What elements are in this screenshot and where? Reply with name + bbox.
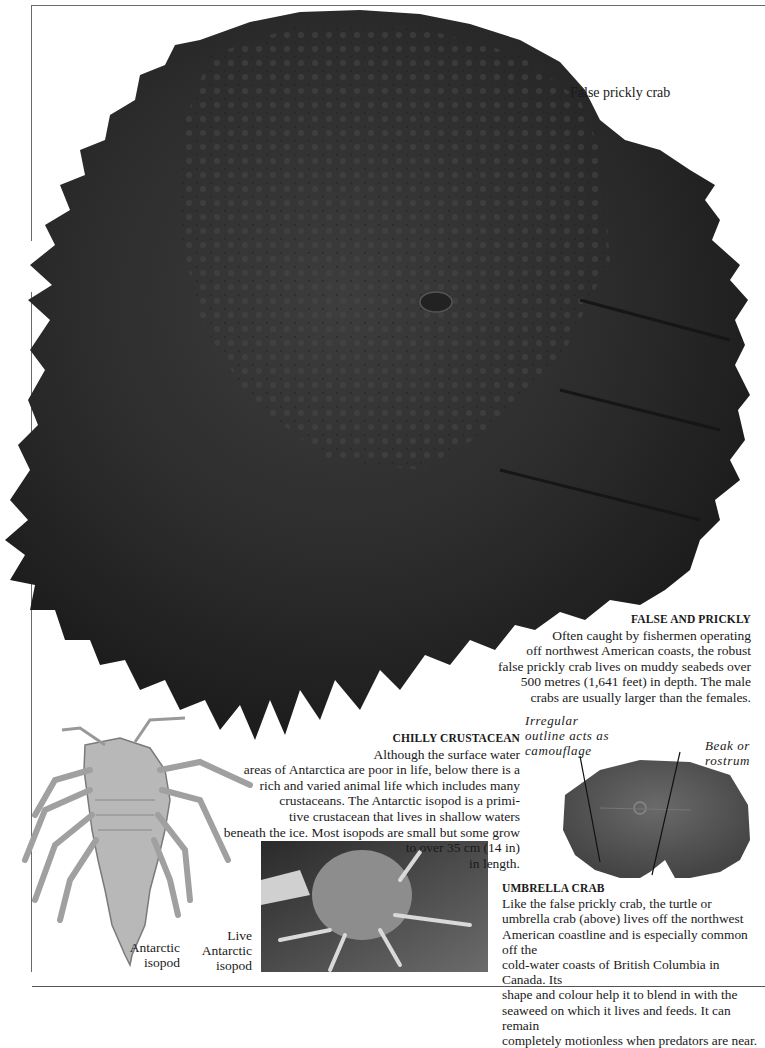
caption-line: tive crustacean that lives in shallow wa… — [210, 809, 520, 825]
label-line: Beak or — [660, 738, 750, 753]
caption-line: seaweed on which it lives and feeds. It … — [502, 1003, 764, 1033]
caption-line: cold-water coasts of British Columbia in… — [502, 957, 764, 987]
caption-line: to over 35 cm (14 in) — [210, 840, 520, 856]
caption-line: areas of Antarctica are poor in life, be… — [210, 762, 520, 778]
label-line: Live — [190, 928, 252, 943]
caption-line: Often caught by fishermen operating — [421, 628, 751, 644]
caption-line: false prickly crab lives on muddy seabed… — [421, 659, 751, 675]
caption-line: American coastline and is especially com… — [502, 927, 764, 957]
caption-line: rich and varied animal life which includ… — [210, 778, 520, 794]
irregular-outline-label: Irregular outline acts as camouflage — [525, 713, 645, 758]
false-and-prickly-caption: FALSE AND PRICKLY Often caught by fisher… — [421, 612, 751, 706]
label-line: isopod — [80, 955, 180, 970]
label-line: Irregular — [525, 713, 645, 728]
chilly-crustacean-caption: CHILLY CRUSTACEAN Although the surface w… — [210, 731, 520, 871]
caption-line: beneath the ice. Most isopods are small … — [210, 825, 520, 841]
caption-line: 500 metres (1,641 feet) in depth. The ma… — [421, 674, 751, 690]
caption-line: in length. — [210, 856, 520, 872]
caption-line: Although the surface water — [210, 747, 520, 763]
label-line: rostrum — [660, 753, 750, 768]
live-antarctic-isopod-label: Live Antarctic isopod — [190, 928, 252, 973]
false-prickly-crab-label: False prickly crab — [570, 85, 670, 101]
caption-heading: CHILLY CRUSTACEAN — [210, 731, 520, 747]
antarctic-isopod-label: Antarctic isopod — [80, 940, 180, 970]
label-line: outline acts as — [525, 728, 645, 743]
caption-line: off northwest American coasts, the robus… — [421, 643, 751, 659]
caption-heading: UMBRELLA CRAB — [502, 881, 764, 896]
label-line: camouflage — [525, 743, 645, 758]
beak-rostrum-label: Beak or rostrum — [660, 738, 750, 768]
label-line: isopod — [190, 958, 252, 973]
label-line: Antarctic — [80, 940, 180, 955]
caption-heading: FALSE AND PRICKLY — [421, 612, 751, 628]
caption-line: umbrella crab (above) lives off the nort… — [502, 911, 764, 926]
umbrella-crab-image — [563, 760, 750, 878]
caption-line: shape and colour help it to blend in wit… — [502, 987, 764, 1002]
label-line: Antarctic — [190, 943, 252, 958]
caption-line: crabs are usually larger than the female… — [421, 690, 751, 706]
caption-line: crustaceans. The Antarctic isopod is a p… — [210, 793, 520, 809]
caption-line: Like the false prickly crab, the turtle … — [502, 896, 764, 911]
caption-line: completely motionless when predators are… — [502, 1033, 764, 1048]
umbrella-crab-caption: UMBRELLA CRAB Like the false prickly cra… — [502, 881, 764, 1048]
